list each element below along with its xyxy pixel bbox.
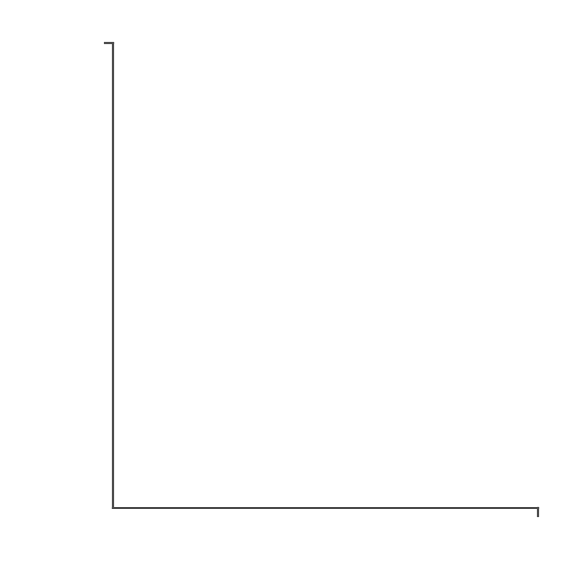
scatter-plot: [0, 0, 576, 578]
figure-container: [0, 0, 576, 578]
